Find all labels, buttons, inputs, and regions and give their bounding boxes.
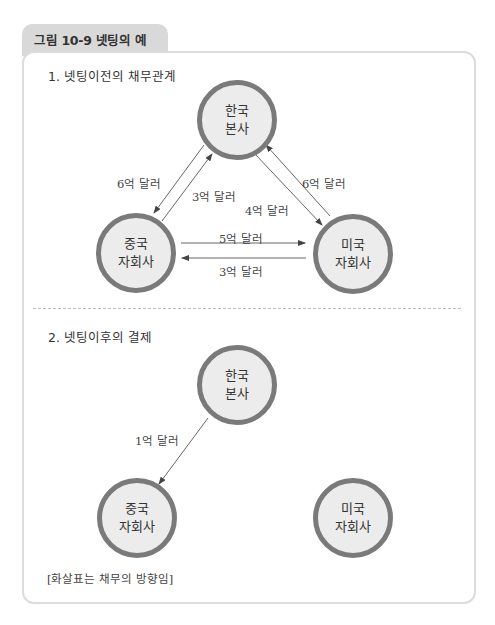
node-usa-sub-after: 미국 자회사	[313, 478, 393, 558]
node-label: 한국	[225, 102, 249, 120]
amount-china-to-korea: 3억 달러	[192, 188, 236, 204]
node-label: 본사	[225, 385, 249, 403]
node-label: 자회사	[335, 254, 371, 272]
node-label: 미국	[341, 236, 365, 254]
arrow-net-korea-to-china	[159, 418, 208, 484]
node-korea-hq-after: 한국 본사	[197, 345, 277, 425]
amount-usa-to-korea: 6억 달러	[302, 175, 346, 191]
node-label: 중국	[125, 500, 149, 518]
node-label: 본사	[225, 120, 249, 138]
node-korea-hq: 한국 본사	[197, 80, 277, 160]
node-label: 자회사	[335, 518, 371, 536]
node-china-sub-after: 중국 자회사	[97, 478, 177, 558]
node-label: 자회사	[119, 518, 155, 536]
node-usa-sub: 미국 자회사	[313, 214, 393, 294]
node-china-sub: 중국 자회사	[96, 213, 176, 293]
amount-china-to-usa: 5억 달러	[219, 230, 263, 246]
footnote: [화살표는 채무의 방향임]	[47, 570, 173, 586]
amount-usa-to-china: 3억 달러	[219, 263, 263, 279]
amount-net-korea-to-china: 1억 달러	[135, 432, 179, 448]
section2-title: 2. 넷팅이후의 결제	[48, 327, 152, 346]
amount-korea-to-usa: 4억 달러	[245, 202, 289, 218]
section-divider	[33, 308, 461, 309]
node-label: 한국	[225, 367, 249, 385]
amount-korea-to-china: 6억 달러	[117, 175, 161, 191]
node-label: 중국	[124, 235, 148, 253]
node-label: 자회사	[118, 253, 154, 271]
node-label: 미국	[341, 500, 365, 518]
